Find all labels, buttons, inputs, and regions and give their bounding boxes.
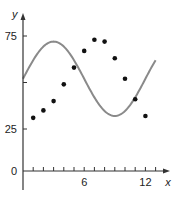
data-point — [62, 82, 67, 87]
x-tick-label: 12 — [139, 176, 151, 188]
data-point — [72, 65, 77, 70]
data-point — [31, 116, 36, 121]
data-point — [113, 56, 118, 61]
data-point — [133, 97, 138, 102]
data-point — [102, 39, 107, 44]
data-point — [92, 37, 97, 42]
y-axis-arrow-icon — [21, 13, 26, 20]
scatter-chart: 61202575yx — [0, 0, 175, 198]
data-points — [31, 37, 148, 120]
data-point — [143, 114, 148, 119]
sinusoid-path — [23, 42, 156, 116]
y-tick-label: 0 — [11, 165, 17, 177]
y-tick-label: 25 — [5, 123, 17, 135]
data-point — [123, 76, 128, 81]
data-point — [41, 108, 46, 113]
data-point — [82, 49, 87, 54]
y-tick-label: 75 — [5, 30, 17, 42]
data-point — [51, 99, 56, 104]
x-axis-arrow-icon — [163, 169, 170, 174]
x-axis-label: x — [164, 176, 171, 188]
y-axis-label: y — [11, 8, 19, 20]
axis-labels: 61202575yx — [5, 8, 172, 188]
sinusoid-curve — [23, 42, 156, 116]
x-tick-label: 6 — [81, 176, 87, 188]
